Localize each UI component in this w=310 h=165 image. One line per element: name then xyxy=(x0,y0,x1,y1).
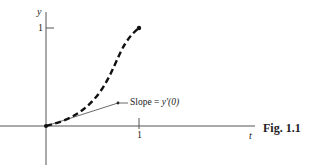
end-point xyxy=(137,26,141,30)
figure: y 1 1 t Slope = y′(0) Fig. 1.1 xyxy=(0,0,310,165)
x-tick-label: 1 xyxy=(137,129,142,140)
slope-annotation-prefix: Slope = xyxy=(130,97,162,107)
figure-caption: Fig. 1.1 xyxy=(263,121,301,136)
y-axis-label: y xyxy=(37,6,41,17)
y-tick-label: 1 xyxy=(38,22,43,33)
plot-canvas xyxy=(0,0,310,165)
x-axis-label: t xyxy=(249,130,252,141)
slope-annotation-expr: y′(0) xyxy=(162,97,179,107)
slope-annotation: Slope = y′(0) xyxy=(130,97,179,107)
origin-point xyxy=(44,124,48,128)
